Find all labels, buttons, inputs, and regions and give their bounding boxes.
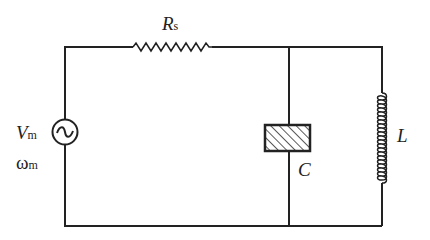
source-voltage-label: Vm [16,123,37,142]
resistor-label: Rs [162,14,178,33]
circuit-diagram [0,0,430,240]
resistor-symbol: R [162,13,174,34]
capacitor-c [265,125,310,151]
source-voltage-subscript: m [28,128,37,142]
inductor-l [378,93,387,183]
capacitor-label: C [298,160,311,179]
wire-left-top [65,47,133,120]
source-frequency-symbol: ω [16,152,29,173]
inductor-label: L [397,126,408,145]
wire-top [212,47,382,93]
ac-source-icon [53,120,78,145]
resistor-rs [133,43,212,51]
source-voltage-symbol: V [16,122,28,143]
wire-left-bottom [65,144,382,226]
resistor-subscript: s [174,19,179,33]
source-frequency-label: ωm [16,153,38,172]
source-frequency-subscript: m [29,158,38,172]
